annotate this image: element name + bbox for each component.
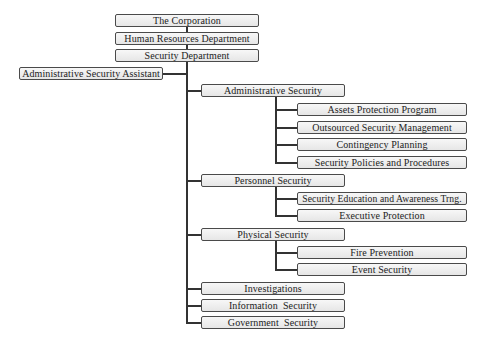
connector-contingency <box>275 144 297 146</box>
node-administrative-security: Administrative Security <box>201 84 345 97</box>
node-security-education: Security Education and Awareness Trng. <box>297 192 467 205</box>
connector-personnel <box>186 180 201 182</box>
personnel-subtrunk <box>275 187 277 216</box>
physical-subtrunk <box>275 240 277 270</box>
node-contingency-planning: Contingency Planning <box>297 138 467 151</box>
connector-assistant <box>163 73 187 75</box>
node-corporation: The Corporation <box>115 14 259 27</box>
node-security-policies: Security Policies and Procedures <box>297 156 467 169</box>
main-trunk <box>186 62 188 323</box>
connector-outsourced <box>275 127 297 129</box>
connector-policies <box>275 162 297 164</box>
node-hr-department: Human Resources Department <box>115 32 259 45</box>
node-security-department: Security Department <box>115 49 259 62</box>
admin-subtrunk <box>275 97 277 163</box>
connector-assets <box>275 109 297 111</box>
node-assets-protection: Assets Protection Program <box>297 103 467 116</box>
node-government-security: Government Security <box>201 316 345 329</box>
connector-investigations <box>186 288 201 290</box>
node-event-security: Event Security <box>297 263 467 276</box>
connector-event <box>275 269 297 271</box>
connector-admin <box>186 90 201 92</box>
node-information-security: Information Security <box>201 299 345 312</box>
node-admin-security-assistant: Administrative Security Assistant <box>19 67 163 80</box>
node-fire-prevention: Fire Prevention <box>297 246 467 259</box>
connector-executive <box>275 215 297 217</box>
node-investigations: Investigations <box>201 282 345 295</box>
connector-information <box>186 305 201 307</box>
connector-government <box>186 322 201 324</box>
node-physical-security: Physical Security <box>201 228 345 241</box>
node-executive-protection: Executive Protection <box>297 209 467 222</box>
node-personnel-security: Personnel Security <box>201 174 345 187</box>
connector-fire <box>275 252 297 254</box>
connector-education <box>275 198 297 200</box>
node-outsourced-security: Outsourced Security Management <box>297 121 467 134</box>
connector-physical <box>186 234 201 236</box>
